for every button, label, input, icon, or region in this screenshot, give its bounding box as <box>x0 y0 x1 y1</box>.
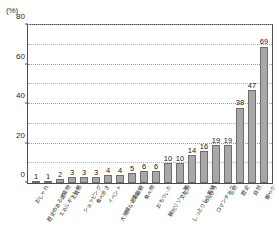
bar-value-label: 69 <box>260 38 268 46</box>
x-axis-label-slot: 自然 <box>247 185 259 240</box>
x-axis-label-slot: ショッピング <box>77 185 89 240</box>
bar[interactable] <box>32 181 40 183</box>
bar[interactable] <box>212 145 220 183</box>
bar[interactable] <box>188 155 196 183</box>
bar[interactable] <box>104 175 112 183</box>
x-axis-label-slot: 食べ歩き <box>89 185 101 240</box>
bar[interactable] <box>248 90 256 183</box>
bar-chart: (%) 020406080 11233344566101014161919384… <box>0 0 279 240</box>
x-axis-label-slot: イベント <box>102 185 114 240</box>
bar-value-label: 2 <box>58 171 62 179</box>
x-axis-label-slot: のんびり <box>198 185 210 240</box>
bar-slot: 5 <box>126 25 138 183</box>
x-axis-label-slot: 食べ物 <box>138 185 150 240</box>
bar[interactable] <box>116 175 124 183</box>
y-axis-tick-label: 0 <box>21 170 25 179</box>
bar-value-label: 47 <box>248 82 256 90</box>
bar-value-label: 6 <box>142 163 146 171</box>
x-axis-label-slot: ロマンチック <box>210 185 222 240</box>
x-axis-labels: おしゃれ歴史のある建築物エネルギッシュ上質感ショッピング食べ歩きイベント大規模な… <box>27 185 273 240</box>
bar-value-label: 4 <box>118 167 122 175</box>
bar-value-label: 3 <box>82 169 86 177</box>
bar[interactable] <box>152 171 160 183</box>
bar-value-label: 19 <box>212 137 220 145</box>
bar[interactable] <box>176 163 184 183</box>
bar[interactable] <box>140 171 148 183</box>
bar-slot: 3 <box>78 25 90 183</box>
bar-value-label: 16 <box>200 143 208 151</box>
bar-value-label: 3 <box>94 169 98 177</box>
bar-value-label: 3 <box>70 169 74 177</box>
bar-slot: 14 <box>186 25 198 183</box>
x-axis-label-slot: エネルギッシュ <box>53 185 65 240</box>
bar-value-label: 19 <box>224 137 232 145</box>
bar-value-label: 38 <box>236 99 244 107</box>
plot-area: 020406080 11233344566101014161919384769 <box>27 24 273 184</box>
x-axis-label-slot: 賑やか <box>259 185 271 240</box>
x-axis-label-slot: 文化的 <box>174 185 186 240</box>
bar-value-label: 4 <box>106 167 110 175</box>
bar-slot: 1 <box>42 25 54 183</box>
bar-value-label: 6 <box>154 163 158 171</box>
bar-slot: 6 <box>138 25 150 183</box>
bar[interactable] <box>224 145 232 183</box>
bar-value-label: 10 <box>176 155 184 163</box>
bar-slot: 16 <box>198 25 210 183</box>
x-axis-label-slot: 伝統 <box>223 185 235 240</box>
bar[interactable] <box>260 47 268 183</box>
x-axis-label-slot: おちついた <box>150 185 162 240</box>
bar-value-label: 5 <box>130 165 134 173</box>
bar-slot: 1 <box>30 25 42 183</box>
x-axis-label-slot: 楽しい <box>126 185 138 240</box>
x-axis-label-slot: 歴史 <box>235 185 247 240</box>
x-axis-label-slot: おしゃれ <box>29 185 41 240</box>
bar-slot: 10 <box>174 25 186 183</box>
x-axis-label-slot: しっとりした風情 <box>186 185 198 240</box>
bar[interactable] <box>44 181 52 183</box>
bar[interactable] <box>128 173 136 183</box>
bar-slot: 3 <box>66 25 78 183</box>
bar-value-label: 1 <box>46 173 50 181</box>
bar[interactable] <box>92 177 100 183</box>
x-axis-label: 賑やか <box>265 185 277 201</box>
bar-slot: 4 <box>114 25 126 183</box>
bar-value-label: 10 <box>164 155 172 163</box>
x-axis-label-slot: 上質感 <box>65 185 77 240</box>
bar-slot: 3 <box>90 25 102 183</box>
bar[interactable] <box>200 151 208 183</box>
bar[interactable] <box>164 163 172 183</box>
x-axis-label-slot: 歴史のある建築物 <box>41 185 53 240</box>
y-axis-tick-label: 40 <box>16 91 25 100</box>
bar[interactable] <box>56 179 64 183</box>
bar-slot: 4 <box>102 25 114 183</box>
bar-slot: 6 <box>150 25 162 183</box>
bar-slot: 38 <box>234 25 246 183</box>
bar[interactable] <box>80 177 88 183</box>
bar[interactable] <box>236 108 244 183</box>
bars-container: 11233344566101014161919384769 <box>28 25 272 183</box>
x-axis-label-slot: 観光リゾート地 <box>162 185 174 240</box>
bar-slot: 19 <box>210 25 222 183</box>
bar-slot: 47 <box>246 25 258 183</box>
y-axis-tick-label: 80 <box>16 12 25 21</box>
bar-value-label: 14 <box>188 147 196 155</box>
bar-slot: 69 <box>258 25 270 183</box>
bar[interactable] <box>68 177 76 183</box>
y-axis-tick-label: 60 <box>16 51 25 60</box>
y-axis-tick-label: 20 <box>16 130 25 139</box>
bar-slot: 10 <box>162 25 174 183</box>
bar-slot: 19 <box>222 25 234 183</box>
bar-value-label: 1 <box>34 173 38 181</box>
bar-slot: 2 <box>54 25 66 183</box>
x-axis-label-slot: 大規模な遊ぶ施設 <box>114 185 126 240</box>
